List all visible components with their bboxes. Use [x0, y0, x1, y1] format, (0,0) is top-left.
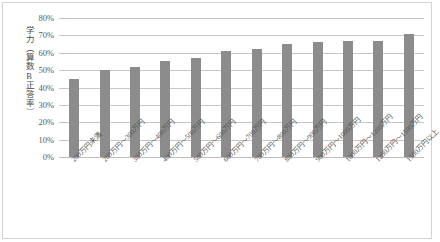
- bar: [69, 79, 79, 157]
- bar: [343, 41, 353, 157]
- y-axis-tick-label: 40%: [22, 84, 54, 93]
- bar: [252, 49, 262, 157]
- bar: [221, 51, 231, 157]
- bar: [100, 70, 110, 157]
- y-axis-tick-label: 50%: [22, 66, 54, 75]
- y-axis-tick-label: 30%: [22, 101, 54, 110]
- y-axis-tick-label: 80%: [22, 14, 54, 23]
- y-axis-tick-label: 70%: [22, 31, 54, 40]
- bar: [160, 61, 170, 157]
- bar: [404, 34, 414, 157]
- y-axis-tick-label: 10%: [22, 136, 54, 145]
- bar: [130, 67, 140, 157]
- y-axis-tick-label: 0%: [22, 153, 54, 162]
- bar: [282, 44, 292, 157]
- bar: [191, 58, 201, 157]
- x-axis-labels: 200万円未満200万円～300万円300万円～400万円400万円～500万円…: [59, 158, 424, 240]
- y-axis-tick-label: 20%: [22, 118, 54, 127]
- y-axis-tick-label: 60%: [22, 49, 54, 58]
- bar: [373, 41, 383, 157]
- bar: [313, 42, 323, 157]
